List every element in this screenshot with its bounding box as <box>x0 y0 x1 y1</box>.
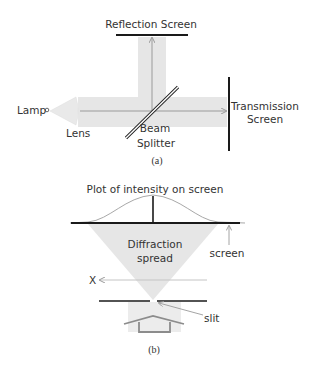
diffraction-label: Diffraction <box>128 238 183 250</box>
caption-b: (b) <box>148 344 160 356</box>
caption-a: (a) <box>151 155 162 167</box>
splitter-label: Splitter <box>137 137 176 149</box>
lens-label: Lens <box>66 127 90 139</box>
lamp-label: Lamp <box>17 104 47 116</box>
lens-shape <box>50 97 78 125</box>
intensity-curve <box>70 195 245 223</box>
figure-b: Plot of intensity on screen Diffraction … <box>70 183 245 356</box>
plot-title: Plot of intensity on screen <box>87 183 224 195</box>
screen-label: screen <box>210 247 245 259</box>
slit-label: slit <box>204 312 219 324</box>
transmission-label: Transmission <box>230 100 299 112</box>
reflection-screen-label: Reflection Screen <box>105 18 197 30</box>
spread-label: spread <box>137 252 173 264</box>
diagram-canvas: Reflection Screen Lamp Lens Beam Splitte… <box>0 0 310 367</box>
beam-label: Beam <box>140 122 170 134</box>
x-axis-label: X <box>89 274 96 286</box>
figure-a: Reflection Screen Lamp Lens Beam Splitte… <box>17 18 299 167</box>
transmission-screen-label: Screen <box>247 113 283 125</box>
